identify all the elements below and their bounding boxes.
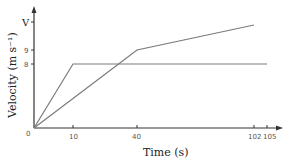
x-tick-102: 102 (248, 133, 261, 141)
y-axis-title: Velocity (m s⁻¹) (6, 32, 19, 119)
y-axis-arrow-icon (32, 6, 37, 13)
y-tick-8: 8 (24, 61, 28, 69)
x-tick-10: 10 (69, 133, 78, 141)
y-tick-9: 9 (24, 47, 28, 55)
x-tick-105: 105 (263, 133, 276, 141)
series-line-a (34, 64, 267, 128)
x-axis-title: Time (s) (143, 146, 189, 159)
velocity-time-chart: V 9 8 0 10 40 102 105 Time (s) Velocity … (0, 0, 284, 160)
x-tick-0: 0 (26, 130, 30, 138)
series-line-b (34, 25, 254, 128)
y-tick-V: V (21, 17, 30, 28)
x-tick-40: 40 (132, 133, 141, 141)
x-axis-arrow-icon (276, 126, 283, 131)
